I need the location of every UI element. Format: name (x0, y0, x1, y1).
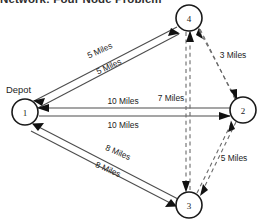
node-group-4[interactable]: 4 (176, 5, 202, 31)
arc-pair-1-2 (37, 104, 231, 120)
network-diagram: 1 2 3 4 Depot 5 Miles 5 Miles 10 Miles 1… (0, 0, 263, 221)
arrowhead-into-node-2-from-1 (219, 112, 231, 120)
edge-label-3-to-1: 8 Miles (104, 142, 132, 162)
depot-label: Depot (6, 84, 31, 95)
edge-label-4-3: 7 Miles (158, 93, 185, 103)
edge-label-4-2: 3 Miles (220, 50, 247, 60)
arrowhead-into-node-4-from-2 (196, 28, 203, 40)
node-2-label: 2 (241, 106, 246, 116)
node-group-3[interactable]: 3 (176, 192, 202, 218)
arrowhead-into-node-4-from-3 (186, 31, 194, 43)
edge-4-to-2-dash (199, 30, 236, 99)
node-3-label: 3 (187, 201, 192, 211)
arc-pair-4-2 (196, 28, 237, 101)
node-4-label: 4 (187, 14, 192, 24)
diagram-canvas: Network: Four Node Problem (0, 0, 263, 221)
edge-label-1-to-2: 10 Miles (107, 120, 138, 130)
arrowhead-into-node-3-from-4 (182, 181, 190, 193)
edge-label-1-to-4: 5 Miles (95, 56, 123, 76)
edge-label-4-to-1: 5 Miles (86, 40, 114, 60)
node-1-label: 1 (23, 108, 28, 118)
edge-3-to-1-line (33, 124, 178, 199)
arrowhead-into-node-3-from-2 (200, 184, 208, 196)
arc-pair-4-3 (182, 31, 194, 193)
arrowhead-into-node-1-from-3 (32, 123, 44, 131)
arrowhead-into-node-2-from-3 (228, 121, 235, 133)
edge-label-2-3: 5 Miles (221, 153, 248, 163)
node-group-1[interactable]: 1 (12, 99, 38, 125)
edge-label-2-to-1: 10 Miles (107, 96, 138, 106)
node-group-2[interactable]: 2 (230, 97, 256, 123)
arrowhead-into-node-3-from-1 (165, 199, 177, 207)
